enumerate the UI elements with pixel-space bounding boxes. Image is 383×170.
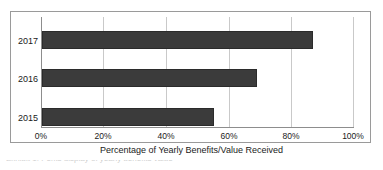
y-axis-label-2016: 2016 [10,74,38,84]
x-tick-label-0: 0% [21,132,61,141]
figure-caption-cutoff: Exhibit 1. Perks display of yearly benef… [6,160,246,169]
x-tick-label-80: 80% [271,132,311,141]
x-tick-label-20: 20% [83,132,123,141]
figure-caption-text: Exhibit 1. Perks display of yearly benef… [6,160,246,163]
x-tick-label-40: 40% [146,132,186,141]
bar-2015 [42,108,214,126]
x-tick-label-100: 100% [333,132,373,141]
bar-2016 [42,69,257,87]
chart-frame: 2017 2016 2015 0% 20% 40% 60% 80% 100% P… [10,11,371,143]
y-axis-label-2017: 2017 [10,36,38,46]
bar-2017 [42,31,313,49]
chart-screenshot: 2017 2016 2015 0% 20% 40% 60% 80% 100% P… [0,0,383,170]
x-axis-title: Percentage of Yearly Benefits/Value Rece… [11,145,372,155]
x-axis-line [41,127,354,128]
x-tick-label-60: 60% [209,132,249,141]
y-axis-label-2015: 2015 [10,113,38,123]
gridline-100 [353,17,354,128]
